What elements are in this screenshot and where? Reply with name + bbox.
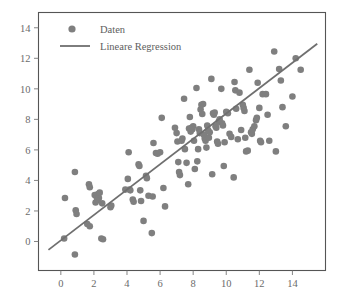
data-point: [99, 200, 106, 207]
data-point: [86, 184, 93, 191]
x-tick-label: 10: [221, 278, 232, 289]
data-point: [160, 185, 167, 192]
data-point: [136, 163, 143, 170]
y-tick-label: 4: [25, 175, 31, 186]
data-point: [266, 137, 273, 144]
data-point: [208, 76, 215, 83]
data-point: [241, 108, 248, 115]
data-point: [209, 171, 216, 178]
data-point: [235, 136, 242, 143]
data-point: [278, 77, 285, 84]
data-point: [179, 135, 186, 142]
data-point: [72, 251, 79, 258]
data-point: [183, 160, 190, 167]
data-point: [289, 93, 296, 100]
x-tick-label: 6: [157, 278, 162, 289]
data-point: [244, 147, 251, 154]
x-tick-label: 12: [254, 278, 265, 289]
data-point: [218, 86, 225, 93]
data-point: [73, 211, 80, 218]
data-point: [150, 140, 157, 147]
y-tick-label: 14: [20, 23, 31, 34]
data-point: [273, 148, 280, 155]
y-tick-label: 8: [25, 114, 30, 125]
data-point: [254, 115, 261, 122]
data-point: [173, 130, 180, 137]
x-tick-label: 14: [287, 278, 298, 289]
data-point: [251, 123, 258, 130]
data-point: [140, 218, 147, 225]
y-tick-label: 2: [25, 206, 30, 217]
legend-marker-circle-icon: [68, 25, 75, 32]
data-point: [238, 127, 245, 134]
data-point: [297, 66, 304, 73]
y-tick-label: 6: [25, 145, 30, 156]
data-point: [242, 134, 249, 141]
data-point: [221, 139, 228, 146]
data-point: [258, 139, 265, 146]
data-point: [86, 223, 93, 230]
x-tick-label: 0: [58, 278, 63, 289]
data-point: [279, 104, 286, 111]
data-point: [72, 169, 79, 176]
plot-canvas: 02468101214 02468101214 DatenLineare Reg…: [0, 0, 340, 307]
data-point: [211, 109, 218, 116]
data-point: [203, 144, 210, 151]
data-point: [177, 172, 184, 179]
y-tick-label: 10: [20, 84, 31, 95]
x-tick-label: 2: [91, 278, 96, 289]
data-point: [246, 66, 253, 73]
data-point: [220, 122, 227, 129]
data-point: [263, 91, 270, 98]
data-point: [185, 181, 192, 188]
data-point: [92, 199, 99, 206]
data-point: [181, 95, 188, 102]
data-point: [264, 111, 271, 118]
data-point: [193, 85, 200, 92]
data-point: [206, 129, 213, 136]
scatter-plot-figure: 02468101214 02468101214 DatenLineare Reg…: [0, 0, 340, 307]
data-point: [192, 166, 199, 173]
data-point: [96, 189, 103, 196]
data-point: [158, 115, 165, 122]
data-point: [200, 101, 207, 108]
data-point: [231, 79, 238, 86]
data-point: [149, 230, 156, 237]
data-point: [187, 114, 194, 121]
data-point: [137, 187, 144, 194]
data-point: [125, 176, 132, 183]
data-point: [125, 149, 132, 156]
data-point: [175, 159, 182, 166]
data-point: [130, 199, 137, 206]
data-point: [213, 124, 220, 131]
y-tick-label: 12: [20, 53, 31, 64]
data-point: [220, 163, 227, 170]
data-point: [195, 146, 202, 153]
data-point: [100, 236, 107, 243]
data-point: [271, 48, 278, 55]
data-point: [162, 203, 169, 210]
data-point: [149, 193, 156, 200]
legend-label-lineare-regression: Lineare Regression: [100, 41, 182, 52]
data-point: [194, 158, 201, 165]
data-point: [230, 174, 237, 181]
data-point: [254, 79, 261, 86]
x-tick-label: 4: [124, 278, 130, 289]
data-point: [199, 111, 206, 118]
x-tick-label: 8: [191, 278, 196, 289]
data-point: [256, 105, 263, 112]
data-point: [138, 198, 145, 205]
data-point: [186, 125, 193, 132]
data-point: [62, 195, 69, 202]
legend-label-daten: Daten: [100, 24, 126, 35]
data-point: [157, 149, 164, 156]
y-tick-label: 0: [25, 236, 30, 247]
data-point: [283, 123, 290, 130]
data-point: [215, 140, 222, 147]
data-point: [236, 89, 243, 96]
data-point: [228, 134, 235, 141]
